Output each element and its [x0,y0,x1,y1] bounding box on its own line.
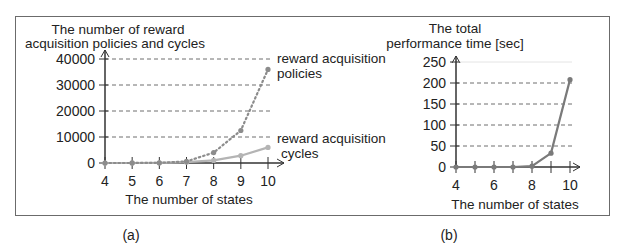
ytick-label: 0 [87,155,95,171]
chart-a-gridlines [105,59,270,137]
chart-a-series [102,67,270,166]
data-point-marker [265,67,270,72]
data-point-marker [529,164,534,169]
data-point-marker [238,128,243,133]
xtick-label: 6 [155,173,163,189]
xtick-label: 10 [562,177,578,193]
data-point-marker [567,77,572,82]
data-point-marker [157,160,162,165]
data-point-marker [184,159,189,164]
xtick-label: 4 [452,177,460,193]
data-point-marker [491,164,496,169]
ytick-label: 250 [423,54,447,70]
ytick-label: 50 [430,138,446,154]
chart-a-xlabel: The number of states [125,192,253,207]
chart-b-yaxis-ticks: 050100150200250 [423,54,459,175]
xtick-label: 8 [528,177,536,193]
data-point-marker [211,150,216,155]
xtick-label: 4 [101,173,109,189]
ytick-label: 100 [423,117,447,133]
chart-a-series-cycles-label-1: reward acquisition [277,131,386,146]
xtick-label: 7 [183,173,191,189]
chart-a-series-policies-label-2: policies [277,66,322,81]
chart-a-yaxis-ticks: 010000200003000040000 [56,51,108,171]
chart-a-ylabel-line1: The number of reward [52,22,185,37]
chart-b-gridlines [456,62,572,146]
xtick-label: 5 [128,173,136,189]
chart-a-series-cycles-label-2: cycles [281,146,319,161]
ytick-label: 10000 [56,129,95,145]
ytick-label: 200 [423,75,447,91]
xtick-label: 9 [237,173,245,189]
data-point-marker [472,164,477,169]
ytick-label: 150 [423,96,447,112]
ytick-label: 0 [438,159,446,175]
chart-b-xlabel: The number of states [451,197,579,212]
chart-a-series-policies-label-1: reward acquisition [277,51,386,66]
xtick-label: 8 [210,173,218,189]
xtick-label: 6 [490,177,498,193]
chart-b-ylabel-line1: The total [429,21,482,36]
ytick-label: 30000 [56,77,95,93]
chart-a: The number of reward acquisition policie… [25,22,386,207]
data-point-marker [265,145,270,150]
chart-a-ylabel-line2: acquisition policies and cycles [25,36,205,51]
chart-b: The total performance time [sec] 0501001… [386,21,580,212]
data-point-marker [453,164,458,169]
data-point-marker [130,160,135,165]
data-point-marker [548,151,553,156]
chart-a-axes [101,50,284,167]
figure: The number of reward acquisition policie… [0,0,626,249]
data-point-marker [510,164,515,169]
panel-b-caption: (b) [440,227,457,243]
data-point-marker [211,158,216,163]
data-point-marker [102,160,107,165]
ytick-label: 40000 [56,51,95,67]
chart-b-series [453,77,572,170]
data-point-marker [238,153,243,158]
ytick-label: 20000 [56,103,95,119]
chart-b-ylabel-line2: performance time [sec] [386,36,523,51]
xtick-label: 10 [260,173,276,189]
series-line-reward-acquisition-policies [105,69,268,163]
panel-a-caption: (a) [122,227,139,243]
